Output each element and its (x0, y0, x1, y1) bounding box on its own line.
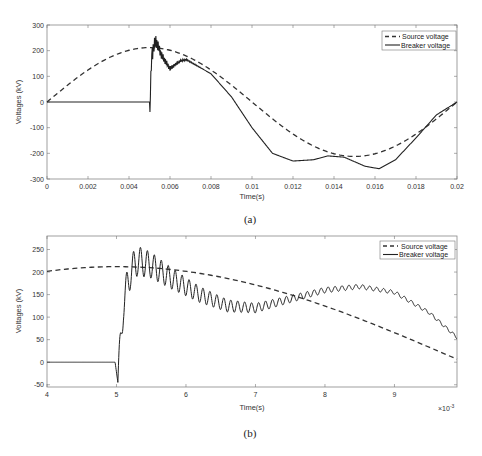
x-tick-label: 8 (323, 391, 327, 398)
legend-source-voltage: Source voltage (401, 243, 448, 251)
y-tick-label: 150 (32, 291, 44, 298)
panel-a-y-axis-label: Voltages (kV) (14, 79, 23, 124)
x-tick-label: 0.02 (450, 183, 464, 190)
panel-b-x-axis-label: Time(s) (239, 403, 265, 412)
panel-a-caption: (a) (244, 213, 257, 226)
x-tick-label: 0.004 (120, 183, 138, 190)
panel-a-x-axis-label: Time(s) (239, 192, 265, 201)
panel-a-chart: 00.0020.0040.0060.0080.010.0120.0140.016… (14, 22, 464, 227)
y-tick-label: 100 (32, 73, 44, 80)
y-tick-label: 50 (36, 336, 44, 343)
y-tick-label: -200 (30, 150, 44, 157)
panel-b-legend: Source voltage Breaker voltage (380, 241, 455, 259)
panel-b-y-axis-label: Voltages (kV) (14, 288, 23, 333)
x-tick-label: 5 (115, 391, 119, 398)
x-tick-label: 0.01 (245, 183, 259, 190)
figure: 00.0020.0040.0060.0080.010.0120.0140.016… (0, 0, 482, 456)
legend-breaker-voltage: Breaker voltage (399, 251, 448, 259)
y-tick-label: 0 (40, 359, 44, 366)
y-tick-label: 300 (32, 22, 44, 29)
panel-b-caption: (b) (244, 427, 257, 440)
y-tick-label: 0 (40, 99, 44, 106)
y-tick-label: -50 (34, 381, 44, 388)
x-tick-label: 0.006 (161, 183, 179, 190)
panel-b-x-exponent: ×10-3 (438, 403, 455, 412)
panel-b-chart: 456789 250200150100500-50 Source voltage… (14, 236, 457, 440)
x-tick-label: 0.002 (79, 183, 97, 190)
x-tick-label: 9 (393, 391, 397, 398)
y-tick-label: 250 (32, 246, 44, 253)
panel-a-legend: Source voltage Breaker voltage (382, 31, 456, 50)
y-tick-label: 200 (32, 47, 44, 54)
y-tick-label: -300 (30, 176, 44, 183)
x-tick-label: 0.018 (407, 183, 425, 190)
x-tick-label: 0.008 (202, 183, 220, 190)
x-tick-label: 0.012 (284, 183, 302, 190)
x-tick-label: 7 (254, 391, 258, 398)
x-tick-label: 4 (45, 391, 49, 398)
legend-source-voltage: Source voltage (402, 33, 449, 41)
x-tick-label: 0.014 (325, 183, 343, 190)
y-tick-label: -100 (30, 124, 44, 131)
y-tick-label: 100 (32, 314, 44, 321)
y-tick-label: 200 (32, 269, 44, 276)
x-tick-label: 6 (184, 391, 188, 398)
legend-breaker-voltage: Breaker voltage (401, 42, 450, 50)
x-tick-label: 0 (45, 183, 49, 190)
x-tick-label: 0.016 (366, 183, 384, 190)
